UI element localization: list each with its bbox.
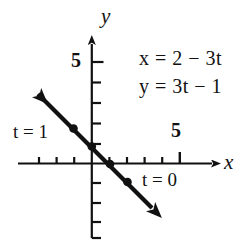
point-y-intercept — [88, 142, 97, 151]
parametric-line — [38, 94, 152, 208]
equation-x: x = 2 − 3t — [139, 48, 222, 68]
equation-y: y = 3t − 1 — [139, 76, 222, 96]
point-x-intercept — [106, 160, 115, 169]
point-t-0 — [123, 178, 132, 187]
y-axis-tick-label-5: 5 — [71, 50, 81, 70]
x-axis-tick-label-5: 5 — [171, 120, 181, 140]
x-axis — [18, 152, 212, 164]
annotation-t-equals-0: t = 0 — [142, 170, 177, 189]
parametric-line-figure: y x 5 5 x = 2 − 3t y = 3t − 1 t = 1 t = … — [0, 0, 246, 248]
annotation-t-equals-1: t = 1 — [13, 122, 48, 141]
point-t-1 — [69, 124, 78, 133]
y-axis-label: y — [101, 6, 110, 27]
y-axis — [92, 44, 104, 238]
x-axis-label: x — [224, 152, 233, 173]
